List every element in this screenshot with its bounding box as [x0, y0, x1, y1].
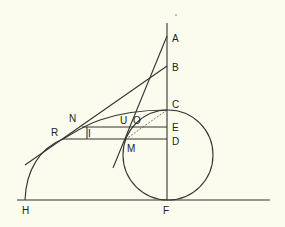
label-r: R [51, 127, 58, 138]
label-n: N [69, 113, 76, 124]
line-a [113, 36, 167, 168]
curve-hc [25, 110, 167, 200]
label-h: H [22, 205, 29, 216]
label-a: A [172, 33, 179, 44]
geometry-diagram: A B C E D F H N R I U O M [0, 0, 285, 227]
label-o: O [133, 115, 141, 126]
label-u: U [120, 115, 127, 126]
label-b: B [172, 62, 179, 73]
label-f: F [163, 205, 169, 216]
label-c: C [172, 99, 179, 110]
label-i: I [88, 128, 91, 139]
label-e: E [172, 122, 179, 133]
stray-dot [175, 14, 176, 15]
label-d: D [172, 136, 179, 147]
label-m: M [127, 143, 135, 154]
